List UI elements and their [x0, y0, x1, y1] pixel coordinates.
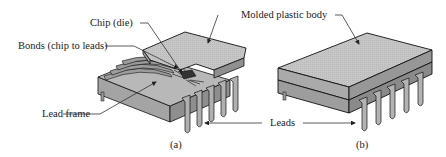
label-bonds: Bonds (chip to leads)	[18, 41, 108, 52]
label-lead-frame: Lead frame	[42, 109, 90, 120]
ic-package-diagram: Chip (die) Bonds (chip to leads) Lead fr…	[0, 0, 446, 157]
label-chip-die: Chip (die)	[90, 18, 133, 29]
diagram-artwork	[0, 0, 446, 157]
panel-b-package	[278, 33, 432, 131]
label-molded-plastic-body: Molded plastic body	[241, 10, 327, 21]
caption-panel-a: (a)	[170, 140, 182, 151]
label-leads: Leads	[270, 118, 295, 129]
caption-panel-b: (b)	[356, 140, 368, 151]
panel-a-package	[98, 32, 246, 133]
